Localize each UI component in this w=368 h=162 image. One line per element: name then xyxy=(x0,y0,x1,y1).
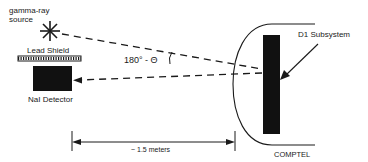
shield-label: Lead Shield xyxy=(27,46,69,55)
distance-label: ~ 1.5 meters xyxy=(131,145,170,154)
lead-shield xyxy=(18,56,81,61)
subsystem-label: D1 Subsystem xyxy=(298,30,350,39)
arrowhead-detector-icon xyxy=(73,77,82,84)
d1-pointer-line xyxy=(286,44,318,75)
ray-source-to-d1 xyxy=(62,34,262,69)
arrowhead-right-icon xyxy=(226,139,235,145)
arrowhead-d1-icon xyxy=(280,70,290,80)
diagram-canvas xyxy=(0,0,368,162)
nai-detector xyxy=(33,66,72,91)
detector-label: NaI Detector xyxy=(28,95,73,104)
angle-label: 180° - Θ xyxy=(124,56,158,65)
source-label: gamma-ray source xyxy=(9,6,49,24)
d1-subsystem xyxy=(263,35,280,134)
source-label-line2: source xyxy=(9,15,49,24)
instrument-label: COMPTEL xyxy=(274,150,310,159)
source-label-line1: gamma-ray xyxy=(9,6,49,15)
gamma-ray-source-icon xyxy=(40,21,60,41)
ray-d1-to-detector xyxy=(80,73,262,80)
arrowhead-left-icon xyxy=(72,139,81,145)
